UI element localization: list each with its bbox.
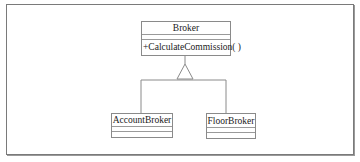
class-name: AccountBroker <box>112 114 172 127</box>
class-operations <box>112 132 172 137</box>
generalization-triangle-icon <box>177 64 193 79</box>
class-operations <box>207 133 255 138</box>
class-name: FloorBroker <box>207 114 255 128</box>
class-floor-broker[interactable]: FloorBroker <box>206 113 256 139</box>
class-account-broker[interactable]: AccountBroker <box>111 113 173 138</box>
class-operation: +CalculateCommission( ) <box>142 40 230 55</box>
class-broker[interactable]: Broker +CalculateCommission( ) <box>141 21 231 56</box>
class-name: Broker <box>142 22 230 35</box>
